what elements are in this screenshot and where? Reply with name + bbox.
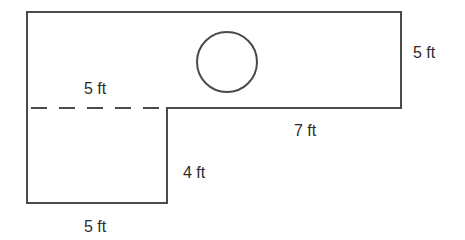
circle-shape <box>197 32 257 92</box>
right-height-label: 5 ft <box>413 44 435 62</box>
dashed-width-label: 5 ft <box>84 80 106 98</box>
floor-plan-diagram <box>0 0 465 240</box>
composite-outline <box>27 12 401 203</box>
lower-width-label: 5 ft <box>84 218 106 236</box>
lower-height-label: 4 ft <box>183 164 205 182</box>
bottom-right-width-label: 7 ft <box>294 122 316 140</box>
